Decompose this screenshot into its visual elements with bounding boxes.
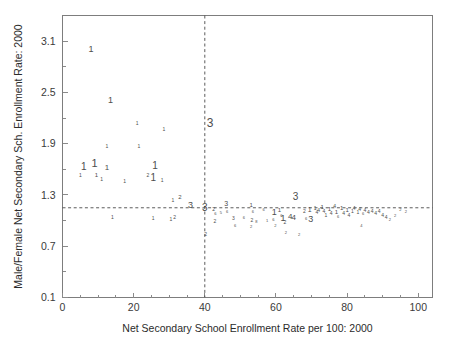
y-tick-label: 1.3 [41, 189, 56, 201]
data-point-marker: 4 [353, 205, 356, 211]
data-point-marker: 1 [161, 177, 164, 183]
data-point-marker: 1 [308, 206, 312, 213]
data-point-marker: 1 [163, 126, 166, 132]
data-point-marker: 6 [252, 209, 255, 214]
data-point-marker: 1 [81, 161, 87, 172]
x-tick-label: 20 [128, 301, 140, 313]
y-tick-label: 3.1 [41, 35, 56, 47]
data-point-marker: 1 [324, 212, 327, 218]
plot-canvas: 0204060801000.10.71.31.92.53.11111311111… [0, 0, 452, 340]
data-point-marker: 5 [220, 210, 223, 215]
data-point-marker: 4 [364, 207, 367, 213]
y-tick-label: 0.1 [41, 291, 56, 303]
y-tick-label: 2.5 [41, 86, 56, 98]
data-point-marker: 3 [207, 116, 214, 130]
data-point-marker: 1 [79, 172, 82, 178]
data-point-marker: 3 [232, 215, 235, 221]
data-point-marker: 2 [405, 209, 408, 214]
data-point-marker: 2 [204, 231, 207, 237]
data-point-marker: 2 [298, 232, 301, 237]
data-point-marker: 1 [152, 160, 158, 171]
data-point-marker: 2 [303, 208, 306, 214]
data-point-marker: 4 [348, 212, 351, 218]
data-point-marker: 4 [330, 210, 333, 216]
y-tick-label: 1.9 [41, 137, 56, 149]
data-point-marker: 2 [178, 194, 182, 200]
data-point-marker: 2 [250, 217, 253, 223]
data-point-marker: 1 [108, 95, 113, 105]
data-point-marker: 4 [367, 209, 370, 215]
data-point-marker: 4 [360, 223, 363, 228]
x-axis-title: Net Secondary School Enrollment Rate per… [122, 322, 373, 334]
x-tick-label: 100 [410, 301, 428, 313]
x-tick-label: 0 [60, 301, 66, 313]
data-point-marker: 1 [100, 176, 103, 182]
y-axis-title: Male/Female Net Secondary Sch. Enrollmen… [12, 24, 24, 289]
data-point-marker: 2 [394, 213, 397, 218]
data-point-marker: 6 [214, 211, 217, 216]
data-point-marker: 2 [285, 230, 288, 235]
data-point-marker: 2 [274, 223, 277, 228]
data-point-marker: 1 [105, 163, 110, 172]
data-point-marker: 3 [202, 202, 208, 213]
data-point-marker: 4 [378, 208, 381, 214]
data-point-marker: 1 [95, 172, 99, 178]
x-tick-label: 60 [270, 301, 282, 313]
data-point-marker: 3 [224, 200, 228, 207]
data-point-marker: 2 [389, 217, 392, 222]
data-point-marker: 4 [371, 208, 374, 214]
data-point-marker: 1 [88, 44, 93, 54]
data-point-marker: 1 [171, 197, 174, 203]
data-point-marker: 1 [170, 216, 173, 222]
data-point-marker: 1 [106, 143, 109, 149]
data-point-marker: 4 [292, 213, 297, 222]
data-point-marker: 2 [399, 207, 402, 212]
data-point-marker: 2 [173, 214, 176, 220]
data-point-marker: 1 [111, 214, 114, 220]
data-point-marker: 6 [337, 214, 340, 219]
data-point-marker: 1 [266, 218, 269, 223]
data-point-marker: 1 [138, 143, 141, 149]
y-tick-label: 0.7 [41, 240, 56, 252]
data-point-marker: 3 [188, 200, 193, 210]
data-point-marker: 1 [272, 207, 277, 217]
data-point-marker: 1 [91, 157, 97, 169]
data-point-marker: 1 [123, 178, 126, 184]
data-point-marker: 1 [249, 202, 253, 208]
data-point-marker: 8 [255, 219, 258, 224]
data-point-marker: 2 [283, 219, 286, 225]
data-point-marker: 2 [146, 172, 149, 178]
data-point-marker: 6 [234, 223, 237, 228]
data-point-marker: 1 [150, 172, 156, 183]
data-point-marker: 4 [385, 214, 388, 220]
data-point-marker: 2 [250, 224, 253, 229]
scatter-plot-figure: 0204060801000.10.71.31.92.53.11111311111… [0, 0, 452, 340]
x-tick-label: 80 [341, 301, 353, 313]
data-point-marker: 1 [152, 215, 155, 221]
data-point-marker: 3 [308, 214, 313, 224]
plot-frame [63, 16, 433, 298]
data-point-marker: 6 [243, 215, 246, 220]
data-point-marker: 4 [374, 210, 377, 216]
data-point-marker: 6 [226, 209, 229, 214]
x-tick-label: 40 [199, 301, 211, 313]
data-point-marker: 4 [358, 206, 361, 212]
data-point-marker: 3 [293, 191, 299, 202]
data-point-marker: 4 [381, 212, 384, 218]
data-point-marker: 1 [136, 120, 139, 126]
data-point-marker: 6 [272, 217, 275, 222]
data-point-marker: 2 [213, 218, 216, 224]
